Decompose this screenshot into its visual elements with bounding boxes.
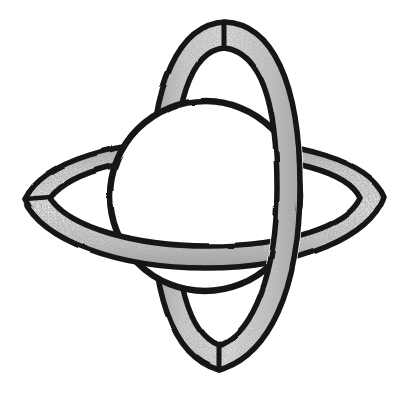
artboard: Interlocking Orbital Rings with Central … bbox=[0, 0, 410, 400]
horizontal-ring-left-vertex bbox=[24, 198, 50, 200]
horizontal-ring-vertices bbox=[24, 198, 50, 200]
orbital-rings-illustration: Interlocking Orbital Rings with Central … bbox=[0, 0, 410, 400]
